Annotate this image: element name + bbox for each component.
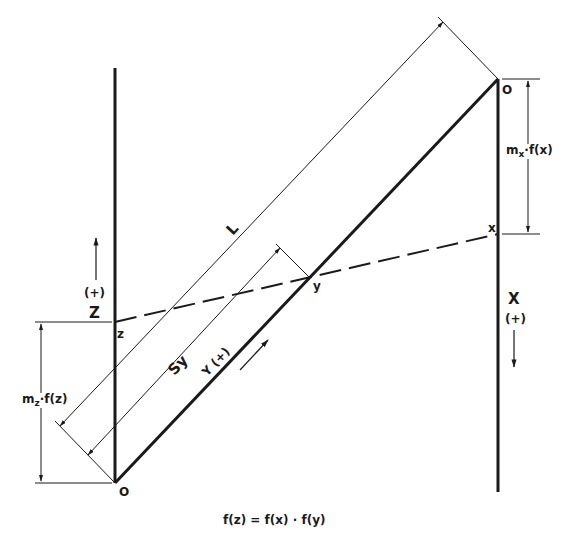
- formula-caption: f(z) = f(x) · f(y): [223, 514, 325, 526]
- z-point-label: z: [117, 328, 124, 340]
- x-point-label: x: [488, 222, 496, 234]
- l-dimension-line: [60, 22, 443, 426]
- l-extension-top: [438, 17, 498, 79]
- x-axis-label: X: [508, 292, 520, 307]
- z-axis-label: Z: [89, 306, 100, 321]
- z-direction-label: (+): [84, 287, 105, 299]
- y-direction-arrow: [240, 340, 268, 370]
- nomogram-diagram: (+) Z z O O x X (+) y Y (+) L Sy mz·f(z)…: [0, 0, 565, 549]
- mx-dimension-label: mx·f(x): [506, 144, 553, 159]
- index-line: [115, 234, 498, 322]
- y-point-label: y: [313, 280, 321, 292]
- y-axis-line: [115, 79, 498, 483]
- x-origin-label: O: [502, 84, 512, 96]
- sy-extension-top: [276, 244, 310, 278]
- mz-dimension-label: mz·f(z): [22, 393, 68, 408]
- diagram-lines: [0, 0, 565, 549]
- sy-dimension-line: [88, 248, 280, 455]
- z-origin-label: O: [119, 486, 129, 498]
- x-direction-label: (+): [505, 313, 526, 325]
- l-extension-bottom: [55, 421, 115, 483]
